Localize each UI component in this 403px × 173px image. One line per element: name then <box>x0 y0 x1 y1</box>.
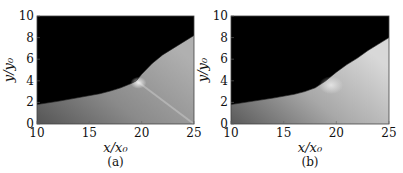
y-tick-label: 10 <box>213 9 228 23</box>
panel-label: (a) <box>107 155 124 169</box>
y-tick-label: 6 <box>220 52 228 66</box>
x-tick-label: 10 <box>223 126 238 140</box>
x-tick-label: 15 <box>276 126 291 140</box>
x-axis-label: x/x₀ <box>103 140 128 155</box>
x-axis-label: x/x₀ <box>298 140 323 155</box>
panel-b: 0246810 10152025 y/y₀ x/x₀ (b) <box>195 9 397 169</box>
y-tick-label: 10 <box>19 9 34 23</box>
y-tick-label: 4 <box>220 74 228 88</box>
panel-a: 0246810 10152025 y/y₀ x/x₀ (a) <box>1 9 202 169</box>
plot-area <box>231 16 389 124</box>
y-tick-label: 2 <box>26 95 34 109</box>
plot-area <box>37 16 194 124</box>
y-tick-label: 8 <box>26 31 34 45</box>
bright-band <box>319 76 343 94</box>
y-axis-label: y/y₀ <box>1 57 16 83</box>
y-tick-label: 4 <box>26 74 34 88</box>
x-tick-label: 25 <box>186 126 201 140</box>
panel-label: (b) <box>301 155 318 169</box>
y-tick-label: 2 <box>220 95 228 109</box>
x-tick-label: 10 <box>29 126 44 140</box>
x-tick-label: 20 <box>329 126 344 140</box>
y-axis-label: y/y₀ <box>195 57 210 83</box>
x-tick-label: 20 <box>134 126 149 140</box>
y-tick-label: 8 <box>220 31 228 45</box>
x-tick-label: 15 <box>82 126 97 140</box>
x-tick-label: 25 <box>381 126 396 140</box>
y-tick-label: 6 <box>26 52 34 66</box>
figure: 0246810 10152025 y/y₀ x/x₀ (a) 0246810 1… <box>0 0 403 173</box>
